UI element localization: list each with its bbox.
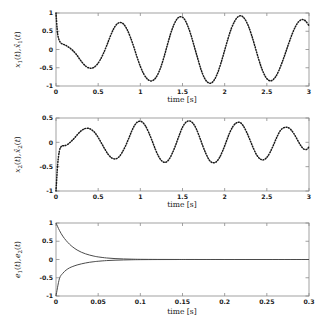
data-curve-x2 xyxy=(56,121,309,191)
y-tick-label: -1 xyxy=(46,82,53,89)
x-tick-label: 0.15 xyxy=(175,298,190,305)
observer-simulation-figure: 00.511.522.53 -1-0.500.51 x1(t), x̂1(t) … xyxy=(0,0,327,330)
x-tick-label: 2 xyxy=(223,88,227,95)
x-tick-label: 3 xyxy=(307,193,311,200)
x-tick-label: 0.25 xyxy=(259,298,274,305)
y-tick-label: 1 xyxy=(49,219,53,226)
y-tick-label: 0 xyxy=(49,46,54,53)
y-tick-label: -1 xyxy=(46,292,53,299)
axes-box-x1 xyxy=(56,13,309,86)
x-tick-label: 2 xyxy=(223,193,227,200)
x-tick-label: 3 xyxy=(307,88,311,95)
x-tick-labels-error: 00.050.10.150.20.250.3 xyxy=(54,298,315,305)
svg-text:e1(t), e2(t): e1(t), e2(t) xyxy=(13,241,23,278)
x-axis-label-x2: time [s] xyxy=(167,200,196,209)
x-tick-label: 1.5 xyxy=(177,88,188,95)
x-tick-label: 0 xyxy=(54,88,59,95)
y-tick-labels-x2: -1-0.500.5 xyxy=(39,114,53,194)
plot-svg-x1: 00.511.522.53 -1-0.500.51 x1(t), x̂1(t) … xyxy=(0,0,327,105)
data-curve-e1 xyxy=(56,223,309,260)
x-tick-label: 0.1 xyxy=(135,298,146,305)
data-curve-x1 xyxy=(56,13,309,83)
data-curve-e2 xyxy=(56,260,309,297)
y-tick-label: 1 xyxy=(49,9,53,16)
x-tick-label: 0.2 xyxy=(219,298,230,305)
x-tick-label: 2.5 xyxy=(261,193,272,200)
x-axis-label-error: time [s] xyxy=(167,307,196,316)
y-tick-label: -0.5 xyxy=(39,64,53,71)
x-tick-label: 1 xyxy=(138,88,142,95)
y-tick-labels-error: -1-0.500.51 xyxy=(39,219,53,299)
y-tick-label: 0.5 xyxy=(42,114,53,121)
x-tick-labels-x1: 00.511.522.53 xyxy=(54,88,311,95)
svg-text:x2(t), x̂2(t): x2(t), x̂2(t) xyxy=(13,136,23,173)
y-tick-label: -0.5 xyxy=(39,274,53,281)
x-tick-label: 0.05 xyxy=(91,298,106,305)
plot-svg-x2: 00.511.522.53 -1-0.500.5 x2(t), x̂2(t) t… xyxy=(0,105,327,210)
x-tick-label: 0.5 xyxy=(93,88,104,95)
plot-panel-state-x2: 00.511.522.53 -1-0.500.5 x2(t), x̂2(t) t… xyxy=(0,105,327,210)
x-tick-label: 0 xyxy=(54,298,59,305)
x-tick-label: 1.5 xyxy=(177,193,188,200)
tick-marks-x1 xyxy=(56,13,309,86)
y-tick-label: 0 xyxy=(49,256,54,263)
axes-box-x2 xyxy=(56,118,309,191)
y-tick-label: -1 xyxy=(46,187,53,194)
y-tick-labels-x1: -1-0.500.51 xyxy=(39,9,53,89)
svg-text:x1(t), x̂1(t): x1(t), x̂1(t) xyxy=(13,31,23,68)
x-tick-label: 0.5 xyxy=(93,193,104,200)
plot-panel-error: 00.050.10.150.20.250.3 -1-0.500.51 e1(t)… xyxy=(0,210,327,330)
y-tick-label: 0.5 xyxy=(42,237,53,244)
x-tick-label: 0.3 xyxy=(304,298,315,305)
x-tick-label: 2.5 xyxy=(261,88,272,95)
y-tick-label: -0.5 xyxy=(39,163,53,170)
tick-marks-x2 xyxy=(56,118,309,191)
x-tick-labels-x2: 00.511.522.53 xyxy=(54,193,311,200)
y-axis-label-error: e1(t), e2(t) xyxy=(13,241,23,278)
plot-panel-state-x1: 00.511.522.53 -1-0.500.51 x1(t), x̂1(t) … xyxy=(0,0,327,105)
y-axis-label-x2: x2(t), x̂2(t) xyxy=(13,136,23,173)
y-tick-label: 0.5 xyxy=(42,27,53,34)
plot-svg-error: 00.050.10.150.20.250.3 -1-0.500.51 e1(t)… xyxy=(0,210,327,330)
y-axis-label-x1: x1(t), x̂1(t) xyxy=(13,31,23,68)
x-tick-label: 1 xyxy=(138,193,142,200)
x-tick-label: 0 xyxy=(54,193,59,200)
x-axis-label-x1: time [s] xyxy=(167,95,196,104)
y-tick-label: 0 xyxy=(49,139,54,146)
